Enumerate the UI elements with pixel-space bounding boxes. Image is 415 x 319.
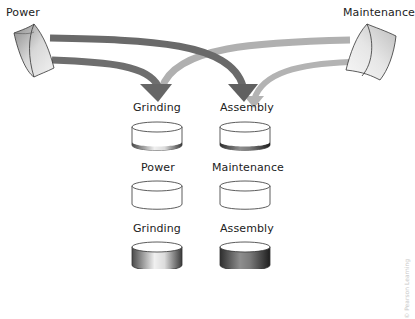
copyright-watermark: © Pearson Learning <box>403 259 410 319</box>
row2-power-label: Power <box>141 161 175 174</box>
cylinder-maintenance-row2 <box>220 181 270 209</box>
cylinder-grinding-row3 <box>132 242 182 269</box>
maintenance-source-cylinder <box>346 24 396 80</box>
cylinder-assembly-row1 <box>220 122 270 150</box>
row1-assembly-label: Assembly <box>220 101 274 114</box>
cylinder-power-row2 <box>132 181 182 209</box>
power-source-cylinder <box>14 24 54 77</box>
row3-grinding-label: Grinding <box>133 222 181 235</box>
power-source-label: Power <box>6 6 40 19</box>
cylinder-grinding-row1 <box>132 122 182 150</box>
row2-maintenance-label: Maintenance <box>212 161 284 174</box>
maintenance-source-label: Maintenance <box>343 6 415 19</box>
cylinder-assembly-row3 <box>220 242 270 269</box>
row3-assembly-label: Assembly <box>220 222 274 235</box>
row1-grinding-label: Grinding <box>133 101 181 114</box>
arrow-power-to-grinding <box>52 60 172 102</box>
